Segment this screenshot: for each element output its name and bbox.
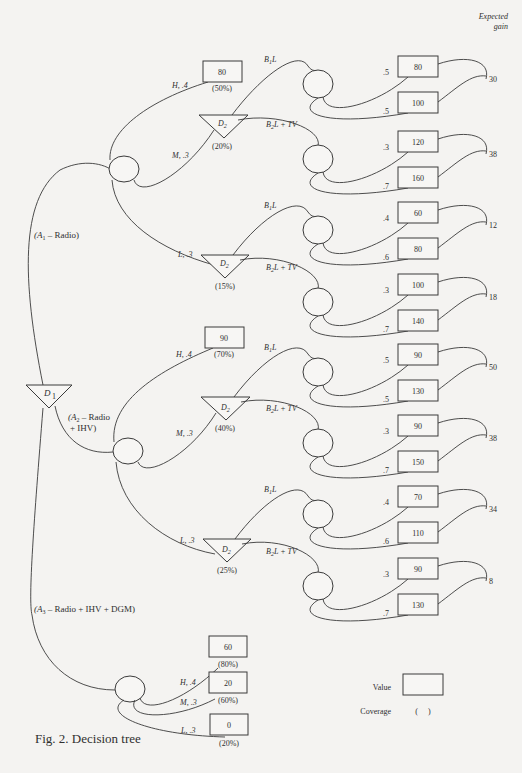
- option-label: B1L: [264, 343, 277, 353]
- probability-label: .6: [383, 253, 389, 262]
- option-label: B1L: [264, 201, 277, 211]
- option-label: B1L: [264, 55, 277, 65]
- expected-gain-value: 30: [489, 75, 497, 84]
- value-text: 60: [224, 643, 232, 652]
- gain-connector: [438, 76, 486, 102]
- coverage-text: (25%): [217, 566, 237, 575]
- branch-l: [116, 462, 215, 554]
- subtree: B1L.5.58010030: [232, 55, 497, 119]
- probability-label: .3: [383, 427, 389, 436]
- subtree: B1L.4.6608012: [233, 201, 497, 265]
- expected-gain-header-line2: gain: [494, 22, 508, 31]
- legend-coverage-label: Coverage: [360, 707, 391, 716]
- branch-m-label: M, .3: [171, 151, 189, 160]
- chance-node-icon: [303, 216, 333, 244]
- branch-h-label: H, .4: [179, 678, 196, 687]
- expected-gain-value: 18: [489, 293, 497, 302]
- chance-node-icon: [109, 156, 139, 182]
- probability-label: .5: [383, 107, 389, 116]
- branch-m: [134, 699, 215, 715]
- branch-l-label: L, .3: [177, 250, 192, 259]
- value-text: 80: [414, 63, 422, 72]
- value-text: 90: [414, 351, 422, 360]
- alt-a1-label: (A1 – Radio): [34, 230, 79, 241]
- subtree: B2L + TV.3.712016038: [238, 118, 497, 194]
- value-text: 80: [414, 245, 422, 254]
- legend-value-box: [403, 674, 443, 695]
- value-text: 90: [414, 422, 422, 431]
- option-label: B2L + TV: [266, 263, 298, 273]
- expected-gain-value: 34: [489, 505, 497, 514]
- coverage-text: (40%): [215, 424, 235, 433]
- branch-h-label: H, .4: [175, 350, 192, 359]
- branch-a1: [28, 163, 112, 385]
- outcome-branch: [323, 507, 408, 538]
- branch-l-label: L, .3: [180, 726, 195, 735]
- probability-label: .7: [383, 182, 389, 191]
- gain-connector: [438, 294, 486, 320]
- coverage-text: (80%): [218, 660, 238, 669]
- coverage-text: (20%): [219, 739, 239, 748]
- option-label: B1L: [264, 485, 277, 495]
- probability-label: .5: [383, 68, 389, 77]
- group-a1: H, .4 80 (50%) M, .3 D2 (20%) L, .3 D2 (…: [109, 61, 249, 291]
- root-decision-sub: 1: [52, 392, 56, 401]
- branch-l-label: L, .3: [179, 536, 194, 545]
- value-text: 120: [412, 138, 424, 147]
- expected-gain-value: 50: [489, 363, 497, 372]
- value-text: 130: [412, 387, 424, 396]
- value-text: 80: [218, 68, 226, 77]
- probability-label: .3: [383, 143, 389, 152]
- expected-gain-value: 12: [489, 221, 497, 230]
- branch-m-label: M, .3: [179, 698, 197, 707]
- branch-h: [140, 668, 218, 705]
- outcome-branch: [323, 436, 408, 467]
- value-text: 60: [414, 209, 422, 218]
- branch-l: [112, 180, 214, 265]
- probability-label: .3: [383, 570, 389, 579]
- expected-gain-value: 38: [489, 434, 497, 443]
- outcome-branch: [323, 365, 408, 396]
- gain-connector: [438, 578, 486, 604]
- decision-tree-diagram: Expected gain D 1 (A1 – Radio) (A2 – Rad…: [0, 0, 522, 773]
- alt-a2-label-line2: + IHV): [70, 423, 96, 433]
- chance-node-icon: [303, 288, 333, 316]
- value-text: 70: [414, 493, 422, 502]
- chance-node-icon: [303, 572, 333, 600]
- chance-node-icon: [303, 500, 333, 528]
- probability-label: .4: [383, 498, 389, 507]
- branch-a3: [31, 408, 115, 690]
- outcome-branch: [323, 579, 408, 610]
- option-label: B2L + TV: [266, 404, 298, 414]
- outcome-branch: [323, 152, 408, 183]
- value-text: 100: [412, 281, 424, 290]
- gain-connector: [438, 435, 486, 461]
- probability-label: .7: [383, 609, 389, 618]
- subtree: B2L + TV.3.7901308: [242, 542, 493, 621]
- value-text: 140: [412, 317, 424, 326]
- value-text: 100: [412, 99, 424, 108]
- alt-a2-label: (A2 – Radio: [68, 412, 110, 423]
- coverage-text: (70%): [214, 350, 234, 359]
- probability-label: .7: [383, 466, 389, 475]
- root-decision-label: D: [43, 388, 51, 398]
- group-a2: H, .4 90 (70%) M, .3 D2 (40%) L, .3 D2 (…: [113, 327, 251, 575]
- value-text: 90: [414, 565, 422, 574]
- option-label: B2L + TV: [266, 120, 298, 130]
- value-text: 160: [412, 174, 424, 183]
- branch-h: [110, 82, 208, 160]
- branch-h-label: H, .4: [171, 81, 188, 90]
- branch-m: [138, 413, 216, 468]
- coverage-text: (60%): [218, 696, 238, 705]
- chance-node-icon: [303, 358, 333, 386]
- probability-label: .3: [383, 286, 389, 295]
- value-text: 90: [220, 334, 228, 343]
- probability-label: .5: [383, 356, 389, 365]
- coverage-text: (50%): [212, 84, 232, 93]
- branch-m-label: M, .3: [175, 429, 193, 438]
- probability-label: .6: [383, 537, 389, 546]
- chance-node-icon: [303, 70, 333, 98]
- subtree: B2L + TV.3.79015038: [241, 400, 497, 478]
- coverage-text: (20%): [212, 142, 232, 151]
- value-text: 150: [412, 458, 424, 467]
